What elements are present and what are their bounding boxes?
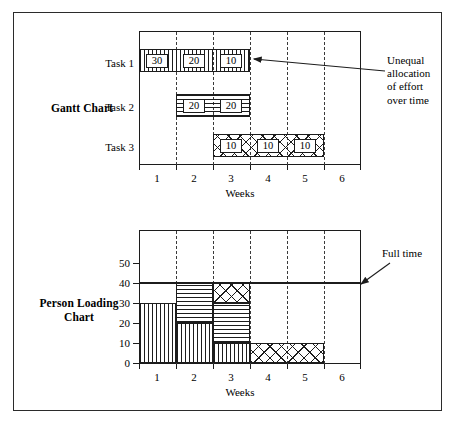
gantt-row-label-task-2: Task 2	[76, 101, 134, 113]
gantt-bar-value-task-1-week-1: 30	[146, 54, 168, 68]
person-loading-ytick-label-10: 10	[108, 337, 130, 349]
gantt-xtick-label-4: 4	[260, 172, 276, 184]
person-loading-ytick-label-20: 20	[108, 317, 130, 329]
gantt-bar-value-task-1-week-3: 10	[220, 54, 242, 68]
person-loading-ytick-label-50: 50	[108, 257, 130, 269]
person-loading-xtick-2	[213, 364, 214, 369]
gantt-xtick-5	[324, 165, 325, 170]
person-loading-region-week-2-task-2	[176, 283, 213, 323]
person-loading-xtick-4	[287, 364, 288, 369]
gantt-xtick-label-1: 1	[149, 172, 165, 184]
person-loading-region-week-3-task-3	[213, 283, 250, 303]
gantt-xtick-3	[250, 165, 251, 170]
person-loading-chart-panel: Person Loading Chart 0 10 20 30 40 50	[14, 203, 443, 412]
person-loading-xtick-label-1: 1	[149, 371, 165, 383]
person-loading-xtick-5	[324, 364, 325, 369]
gantt-annotation-text: Unequal allocation of effort over time	[387, 54, 454, 107]
person-loading-xtick-label-6: 6	[334, 371, 350, 383]
gantt-gridline-5	[324, 32, 325, 165]
person-loading-region-week-2-task-1	[176, 323, 213, 363]
gantt-xtick-label-6: 6	[334, 172, 350, 184]
gantt-row-label-task-1: Task 1	[76, 57, 134, 69]
gantt-bar-value-task-3-week-5: 10	[294, 139, 316, 153]
gantt-xtick-label-2: 2	[186, 172, 202, 184]
person-loading-ytick-50	[133, 263, 140, 264]
person-loading-annotation-text: Full time	[382, 247, 422, 259]
person-loading-xtick-label-3: 3	[223, 371, 239, 383]
person-loading-xtick-6	[360, 364, 361, 369]
person-loading-x-axis-label: Weeks	[210, 386, 270, 398]
gantt-bar-value-task-2-week-2: 20	[183, 99, 205, 113]
gantt-xtick-1	[176, 165, 177, 170]
person-loading-region-week-3-task-2	[213, 303, 250, 343]
figure-border: Gantt Chart Task 1 Task 2 Task 3 1 2 3 4…	[13, 12, 442, 411]
gantt-chart-panel: Gantt Chart Task 1 Task 2 Task 3 1 2 3 4…	[14, 13, 443, 203]
person-loading-xtick-1	[176, 364, 177, 369]
gantt-bar-value-task-3-week-4: 10	[257, 139, 279, 153]
gantt-row-label-task-3: Task 3	[76, 141, 134, 153]
gantt-bar-value-task-1-week-2: 20	[183, 54, 205, 68]
person-loading-xtick-0	[139, 364, 140, 369]
person-loading-xtick-label-5: 5	[297, 371, 313, 383]
gantt-bar-value-task-3-week-3: 10	[220, 139, 242, 153]
gantt-xtick-2	[213, 165, 214, 170]
gantt-xtick-label-3: 3	[223, 172, 239, 184]
person-loading-full-time-line	[139, 282, 361, 284]
gantt-bar-value-task-2-week-3: 20	[220, 99, 242, 113]
person-loading-region-week-4-5-task-3	[250, 343, 324, 363]
person-loading-xtick-3	[250, 364, 251, 369]
gantt-x-axis-label: Weeks	[210, 187, 270, 199]
person-loading-ytick-label-0: 0	[108, 357, 130, 369]
gantt-xtick-label-5: 5	[297, 172, 313, 184]
person-loading-ytick-label-30: 30	[108, 297, 130, 309]
gantt-xtick-0	[139, 165, 140, 170]
person-loading-ytick-label-40: 40	[108, 277, 130, 289]
person-loading-xtick-label-4: 4	[260, 371, 276, 383]
person-loading-region-week-3-task-1	[213, 343, 250, 363]
gantt-xtick-6	[360, 165, 361, 170]
person-loading-region-week-1-task-1	[139, 303, 176, 363]
person-loading-gridline-5	[324, 231, 325, 364]
gantt-xtick-4	[287, 165, 288, 170]
person-loading-xtick-label-2: 2	[186, 371, 202, 383]
